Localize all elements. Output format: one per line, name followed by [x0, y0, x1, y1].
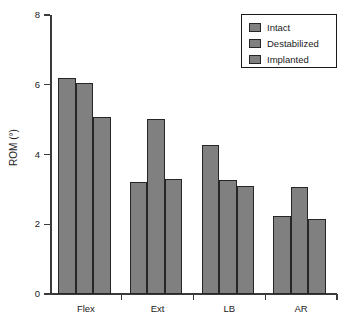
legend-item-intact: Intact — [249, 20, 336, 35]
legend-label: Implanted — [267, 55, 309, 65]
legend-swatch-icon — [249, 23, 261, 32]
x-tick-mark — [193, 294, 194, 300]
legend-label: Destabilized — [267, 39, 319, 49]
x-tick-mark — [336, 294, 337, 300]
bar-flex-implanted — [93, 117, 111, 294]
y-tick-mark — [44, 14, 50, 15]
y-tick-label-wrap: 8 — [22, 10, 40, 20]
y-tick-label: 0 — [22, 289, 40, 299]
bar-ar-intact — [273, 216, 291, 294]
y-tick-label-wrap: 2 — [22, 219, 40, 229]
y-tick-mark — [44, 154, 50, 155]
legend: Intact Destabilized Implanted — [241, 14, 337, 68]
bar-ar-implanted — [308, 219, 326, 294]
y-tick-label-wrap: 6 — [22, 80, 40, 90]
x-group-label-flex: Flex — [56, 303, 116, 314]
bar-lb-implanted — [237, 186, 255, 294]
x-tick-mark — [265, 294, 266, 300]
bar-lb-intact — [202, 145, 220, 294]
y-tick-label: 4 — [22, 150, 40, 160]
x-tick-mark — [121, 294, 122, 300]
bar-lb-destabilized — [219, 180, 237, 294]
bar-ext-destabilized — [147, 119, 165, 294]
x-group-label-lb: LB — [199, 303, 259, 314]
y-axis-line — [50, 15, 52, 294]
y-tick-label: 6 — [22, 80, 40, 90]
y-tick-label: 8 — [22, 10, 40, 20]
legend-item-implanted: Implanted — [249, 52, 336, 67]
x-group-label-ar: AR — [271, 303, 331, 314]
y-axis-title: ROM (°) — [8, 113, 19, 183]
y-tick-label-wrap: 0 — [22, 289, 40, 299]
bar-flex-destabilized — [76, 83, 94, 294]
y-tick-mark — [44, 224, 50, 225]
bar-ext-intact — [130, 182, 148, 294]
legend-label: Intact — [267, 23, 290, 33]
rom-bar-chart: ROM (°) 02468 FlexExtLBAR Intact Destabi… — [0, 0, 344, 323]
bar-ext-implanted — [165, 179, 183, 294]
y-tick-label-wrap: 4 — [22, 150, 40, 160]
y-tick-label: 2 — [22, 219, 40, 229]
legend-swatch-icon — [249, 39, 261, 48]
bar-flex-intact — [58, 78, 76, 294]
x-group-label-ext: Ext — [128, 303, 188, 314]
legend-item-destabilized: Destabilized — [249, 36, 336, 51]
legend-swatch-icon — [249, 55, 261, 64]
y-tick-mark — [44, 84, 50, 85]
bar-ar-destabilized — [291, 187, 309, 294]
